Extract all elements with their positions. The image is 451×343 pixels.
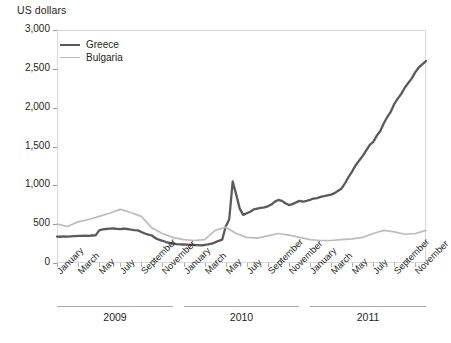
y-axis-tick [53, 224, 57, 225]
y-axis-tick [53, 147, 57, 148]
y-axis-tick [53, 69, 57, 70]
year-group-label: 2011 [290, 311, 446, 323]
legend-swatch-greece [60, 44, 80, 46]
y-axis-tick-label: 2,500 [0, 62, 50, 73]
year-group-rule [310, 306, 426, 307]
year-group-rule [57, 306, 173, 307]
y-axis-tick-label: 2,000 [0, 101, 50, 112]
legend-item-bulgaria: Bulgaria [60, 51, 123, 64]
plot-lines [57, 30, 426, 263]
y-axis-title: US dollars [17, 4, 66, 16]
year-group-rule [184, 306, 300, 307]
y-axis-tick [53, 30, 57, 31]
y-axis-tick [53, 108, 57, 109]
series-line-greece [57, 61, 426, 245]
y-axis-tick-label: 500 [0, 217, 50, 228]
legend-swatch-bulgaria [60, 57, 80, 58]
y-axis-tick-label: 0 [0, 256, 50, 267]
y-axis-tick-label: 1,000 [0, 178, 50, 189]
legend-item-greece: Greece [60, 38, 123, 51]
chart-legend: Greece Bulgaria [60, 38, 123, 64]
y-axis-tick-label: 3,000 [0, 23, 50, 34]
legend-label-bulgaria: Bulgaria [86, 52, 123, 63]
legend-label-greece: Greece [86, 39, 119, 50]
y-axis-tick [53, 185, 57, 186]
y-axis-tick-label: 1,500 [0, 140, 50, 151]
